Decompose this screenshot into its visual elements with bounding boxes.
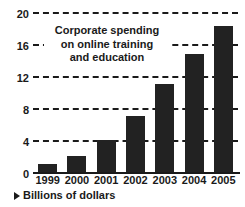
x-tick-label: 2005 [209, 174, 238, 187]
x-tick-label: 2001 [92, 174, 121, 187]
bar-2004 [185, 54, 204, 172]
chart-footnote: Billions of dollars [14, 189, 115, 202]
x-tick-label: 2000 [62, 174, 91, 187]
y-tick-label: 16 [17, 41, 29, 52]
triangle-right-icon [14, 192, 20, 200]
x-axis-labels: 1999200020012002200320042005 [33, 174, 238, 188]
bar-2005 [214, 26, 233, 172]
y-tick-label: 0 [23, 169, 29, 180]
footnote-label: Billions of dollars [23, 189, 115, 202]
y-tick-label: 12 [17, 73, 29, 84]
chart-title-line: on online training [44, 38, 170, 52]
x-tick-label: 2004 [180, 174, 209, 187]
x-tick-label: 2002 [121, 174, 150, 187]
chart-title: Corporate spendingon online trainingand … [44, 24, 170, 65]
bar-1999 [38, 164, 57, 172]
y-tick-label: 8 [23, 105, 29, 116]
chart-title-line: Corporate spending [44, 24, 170, 38]
bar-chart-figure: 048121620 Corporate spendingon online tr… [0, 0, 245, 207]
x-tick-label: 2003 [150, 174, 179, 187]
bar-2002 [126, 116, 145, 172]
y-tick-label: 20 [17, 9, 29, 20]
bar-2000 [67, 156, 86, 172]
y-tick-label: 4 [23, 137, 29, 148]
chart-title-line: and education [44, 51, 170, 65]
bar-2001 [97, 140, 116, 172]
x-tick-label: 1999 [33, 174, 62, 187]
bar-2003 [155, 84, 174, 172]
